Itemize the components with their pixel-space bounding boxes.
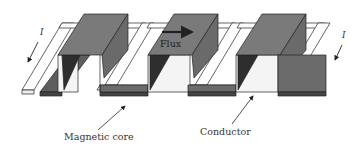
current-label-right: I xyxy=(342,30,346,40)
current-label-left: I xyxy=(40,27,44,37)
current-arrow-right xyxy=(335,45,342,60)
core-leader-line xyxy=(98,106,125,130)
conductor-leader-line xyxy=(232,96,253,124)
current-arrow-left xyxy=(28,42,38,62)
magnetic-core-label: Magnetic core xyxy=(64,131,134,142)
flux-label: Flux xyxy=(160,38,181,49)
meander-inductor-diagram xyxy=(0,0,363,153)
conductor-label: Conductor xyxy=(200,126,251,137)
